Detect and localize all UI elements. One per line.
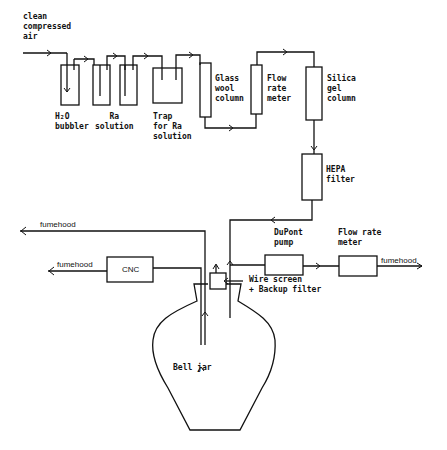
hepa-label: HEPA filter [326,165,355,185]
inlet-label: clean compressed air [23,12,71,42]
dupont-pump-label: DuPont pump [274,228,303,248]
fumehood-top-label: fumehood [40,220,76,230]
fumehood-right-label: fumehood [381,256,417,266]
h2o-bubbler-label: H₂O bubbler [55,112,89,132]
wire-screen-label: Wire screen + Backup filter [249,275,321,295]
trap-label: Trap for Ra solution [153,112,192,142]
flow-meter-2-label: Flow rate meter [338,228,381,248]
bell-jar-label: Bell jar [173,363,212,373]
glass-wool-label: Glass wool column [215,74,244,104]
fumehood-cnc-label: fumehood [57,260,93,270]
ra-solution-label: Ra solution [95,112,134,132]
silica-gel-label: Silica gel column [327,74,356,104]
flow-meter-1-label: Flow rate meter [267,74,291,104]
cnc-label: CNC [122,265,139,275]
